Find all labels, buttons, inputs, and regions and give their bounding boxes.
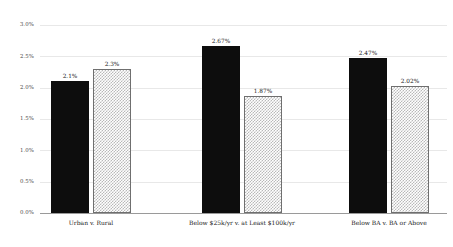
x-axis-category-label: Below BA v. BA or Above: [299, 219, 453, 226]
y-tick-label: 0.5%: [4, 179, 34, 184]
plot-area: 2.1% 2.3% 2.67% 1.87% 2.47%: [40, 25, 447, 213]
y-tick-label: 1.5%: [4, 116, 34, 121]
bar-chart: 3.0% 2.5% 2.0% 1.5% 1.0% 0.5% 0.0% 2.1% …: [0, 0, 453, 247]
bar-value-label: 2.67%: [194, 38, 248, 44]
bar-value-label: 2.47%: [341, 50, 395, 56]
bar-value-label: 2.3%: [85, 61, 139, 67]
y-tick-label: 3.0%: [4, 22, 34, 27]
bar-value-label: 2.1%: [43, 73, 97, 79]
y-tick-label: 0.0%: [4, 210, 34, 215]
bar[interactable]: [51, 81, 89, 213]
y-tick-label: 1.0%: [4, 148, 34, 153]
axis-baseline: [40, 213, 447, 214]
bar-group: 2.1% 2.3%: [51, 25, 131, 213]
bar[interactable]: [244, 96, 282, 213]
bar[interactable]: [349, 58, 387, 213]
bar-value-label: 1.87%: [236, 88, 290, 94]
bar[interactable]: [202, 46, 240, 213]
bar-group: 2.67% 1.87%: [202, 25, 282, 213]
bar[interactable]: [391, 86, 429, 213]
y-tick-label: 2.5%: [4, 54, 34, 59]
bar-value-label: 2.02%: [383, 78, 437, 84]
bar-group: 2.47% 2.02%: [349, 25, 429, 213]
bar[interactable]: [93, 69, 131, 213]
y-tick-label: 2.0%: [4, 85, 34, 90]
